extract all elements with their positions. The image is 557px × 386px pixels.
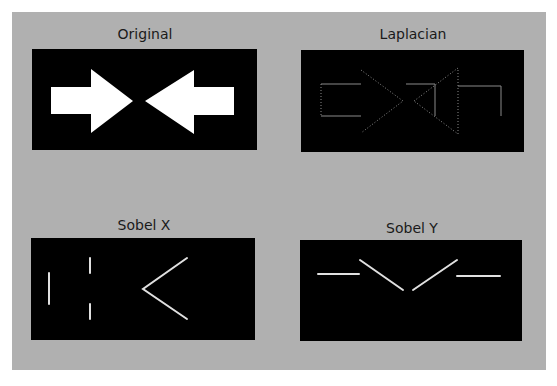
laplacian-edges-image xyxy=(301,50,524,152)
panel-title-sobel-x: Sobel X xyxy=(31,217,257,233)
panel-title-sobel-y: Sobel Y xyxy=(300,220,524,236)
sobel-y-edges-image xyxy=(300,240,522,341)
panel-laplacian xyxy=(301,50,524,152)
figure-canvas: Original Laplacian Sobel X xyxy=(12,12,546,370)
panel-sobel-y xyxy=(300,240,522,341)
panel-sobel-x xyxy=(31,238,255,340)
sobel-x-edges-image xyxy=(31,238,255,340)
arrows-image xyxy=(32,49,257,150)
panel-title-laplacian: Laplacian xyxy=(301,26,525,42)
panel-title-original: Original xyxy=(32,26,258,42)
panel-original xyxy=(32,49,257,150)
